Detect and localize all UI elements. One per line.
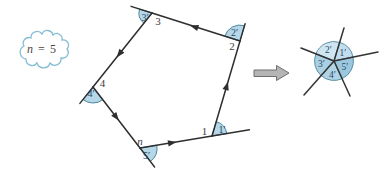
cloud-label: n = 5 bbox=[27, 42, 57, 56]
exterior-angles-figure: n = 5 1 2 3 4 n 1′ 2′ 3 bbox=[0, 0, 388, 185]
exterior-angle-label-1: 1′ bbox=[218, 124, 225, 135]
vertex-label-4: 4 bbox=[100, 77, 106, 89]
sector-label-1: 1′ bbox=[340, 48, 347, 58]
cloud-callout: n = 5 bbox=[20, 30, 68, 67]
exterior-angle-label-4: 4′ bbox=[87, 88, 94, 99]
exterior-angle-label-2: 2′ bbox=[231, 27, 238, 38]
sector-label-2: 2′ bbox=[325, 45, 332, 55]
angles-around-point-diagram: 1′ 2′ 3′ 4′ 5′ bbox=[301, 28, 378, 96]
implies-arrow-icon bbox=[254, 66, 289, 81]
cloud-equation: = 5 bbox=[34, 42, 57, 56]
vertex-label-2: 2 bbox=[229, 40, 235, 52]
pentagon-diagram: 1 2 3 4 n 1′ 2′ 3′ 4′ 5′ bbox=[80, 6, 250, 167]
vertex-label-3: 3 bbox=[155, 15, 161, 27]
vertex-label-n: n bbox=[137, 135, 143, 147]
exterior-angle-label-3: 3′ bbox=[141, 12, 148, 23]
sector-label-3: 3′ bbox=[318, 59, 325, 69]
implies-arrow bbox=[254, 66, 289, 81]
edge-arrow-icon-1-2 bbox=[223, 81, 232, 91]
cloud-variable: n bbox=[27, 42, 34, 56]
vertex-label-1: 1 bbox=[202, 125, 208, 137]
sector-label-5: 5′ bbox=[342, 62, 349, 72]
sector-label-4: 4′ bbox=[329, 70, 336, 80]
exterior-angle-label-5: 5′ bbox=[143, 150, 150, 161]
edge-arrow-icon-2-3 bbox=[189, 22, 199, 31]
